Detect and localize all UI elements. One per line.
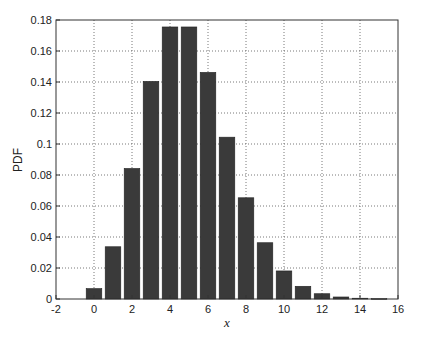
y-axis-label: PDF	[11, 148, 25, 172]
x-axis-label: x	[223, 315, 230, 330]
y-tick-label: 0.04	[31, 231, 52, 243]
bar	[238, 198, 254, 299]
y-tick-label: 0.02	[31, 262, 52, 274]
x-tick-label: 14	[354, 303, 366, 315]
x-tick-label: 12	[316, 303, 328, 315]
bar	[162, 27, 178, 299]
poisson-pdf-bar-chart: 00.020.040.060.080.10.120.140.160.18 -20…	[0, 0, 421, 344]
y-tick-label: 0.14	[31, 76, 52, 88]
x-tick-label: 4	[167, 303, 173, 315]
bar	[105, 247, 121, 299]
x-tick-label: 16	[392, 303, 404, 315]
bar	[200, 72, 216, 299]
x-tick-label: 10	[278, 303, 290, 315]
bar	[295, 286, 311, 299]
bar	[124, 168, 140, 299]
y-tick-label: 0.12	[31, 107, 52, 119]
y-tick-label: 0.06	[31, 200, 52, 212]
bars	[86, 27, 387, 299]
bar	[143, 81, 159, 299]
bar	[181, 27, 197, 299]
x-tick-label: 2	[129, 303, 135, 315]
x-tick-label: -2	[51, 303, 61, 315]
bar	[276, 271, 292, 299]
x-tick-label: 6	[205, 303, 211, 315]
x-tick-label: 8	[243, 303, 249, 315]
y-tick-label: 0.08	[31, 169, 52, 181]
y-tick-label: 0.16	[31, 45, 52, 57]
y-tick-label: 0.1	[37, 138, 52, 150]
x-tick-label: 0	[91, 303, 97, 315]
bar	[257, 243, 273, 299]
y-tick-label: 0.18	[31, 14, 52, 26]
bar	[219, 137, 235, 299]
